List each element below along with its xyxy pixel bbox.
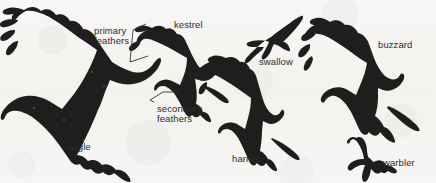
label-buzzard: buzzard bbox=[378, 40, 413, 51]
bird-silhouettes-figure: primary feathers secondary feathers kest… bbox=[0, 0, 436, 183]
label-secondary-feathers: secondary feathers bbox=[157, 104, 213, 124]
label-kestrel: kestrel bbox=[174, 20, 203, 31]
label-eagle: eagle bbox=[67, 142, 91, 153]
label-warbler: warbler bbox=[383, 158, 415, 169]
label-primary-feathers: primary feathers bbox=[94, 26, 138, 46]
label-swallow: swallow bbox=[259, 57, 293, 68]
buzzard-silhouette bbox=[298, 18, 419, 143]
label-harrier: harrier bbox=[232, 154, 260, 165]
bird-silhouettes-layer bbox=[0, 0, 436, 183]
